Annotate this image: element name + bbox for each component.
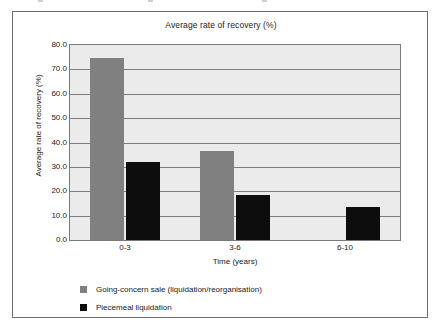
bar — [236, 195, 270, 240]
x-axis-tick-labels: 0-33-66-10 — [69, 243, 401, 257]
scan-speck — [262, 0, 267, 2]
bar — [126, 162, 160, 240]
chart-title: Average rate of recovery (%) — [13, 20, 429, 30]
legend-item: Going-concern sale (liquidation/reorgani… — [80, 280, 262, 298]
x-axis-tick-label: 3-6 — [205, 243, 265, 252]
legend-swatch — [80, 304, 87, 311]
scan-speck — [38, 0, 43, 2]
legend-label: Going-concern sale (liquidation/reorgani… — [96, 285, 262, 294]
plot-area — [69, 44, 401, 241]
chart-figure-frame: Average rate of recovery (%) 80.070.060.… — [12, 11, 428, 318]
scan-speck — [148, 0, 153, 2]
legend-item: Piecemeal liquidation — [80, 298, 262, 316]
x-axis-tick-label: 6-10 — [315, 243, 375, 252]
chart-legend: Going-concern sale (liquidation/reorgani… — [80, 280, 262, 316]
y-axis-tick-label: 0.0 — [33, 235, 67, 244]
y-axis-title: Average rate of recovery (%) — [34, 46, 43, 206]
legend-label: Piecemeal liquidation — [96, 303, 172, 312]
bar — [346, 207, 380, 240]
y-axis-tick-label: 10.0 — [33, 211, 67, 220]
x-axis-tick-label: 0-3 — [95, 243, 155, 252]
bar — [200, 151, 234, 240]
x-axis-title: Time (years) — [69, 257, 401, 266]
bar — [90, 58, 124, 240]
scan-artifact-top-sliver — [0, 0, 441, 6]
legend-swatch — [80, 286, 87, 293]
